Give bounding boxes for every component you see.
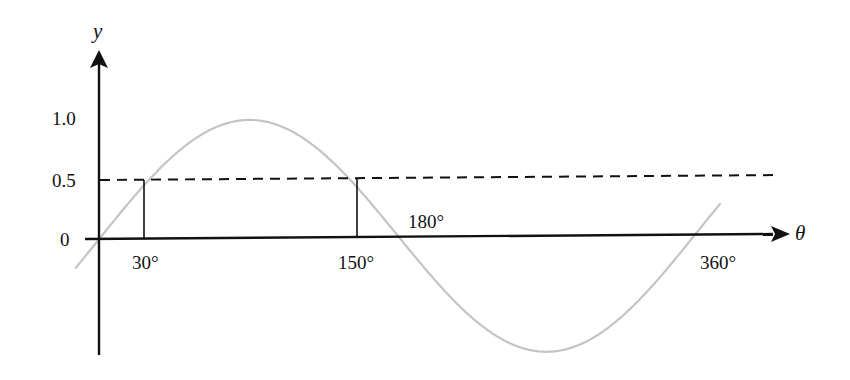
x-axis-arrow-icon — [771, 226, 790, 242]
x-tick-180: 180° — [408, 212, 444, 231]
y-tick-0: 0 — [60, 230, 70, 249]
y-tick-05: 0.5 — [52, 171, 76, 190]
x-tick-150: 150° — [338, 253, 374, 272]
x-axis — [85, 234, 773, 239]
x-tick-360: 360° — [700, 253, 736, 272]
y-tick-1: 1.0 — [52, 109, 76, 128]
x-tick-30: 30° — [132, 253, 159, 272]
x-axis-label: θ — [795, 223, 805, 244]
sine-chart — [0, 0, 850, 380]
dashed-half-line — [100, 175, 780, 180]
y-axis-label: y — [93, 21, 102, 42]
